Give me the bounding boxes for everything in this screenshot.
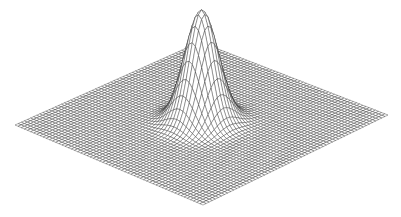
gaussian-surface-plot <box>0 0 401 217</box>
surface-mesh <box>15 10 388 205</box>
wireframe-surface <box>0 0 401 217</box>
